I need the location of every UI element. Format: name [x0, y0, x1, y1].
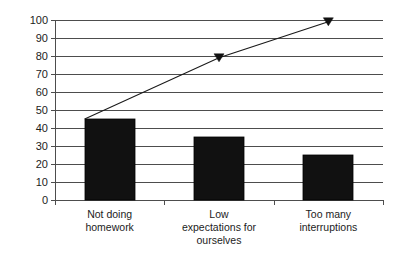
pareto-chart: 1009080706050403020100 Not doinghomework…: [0, 0, 401, 260]
category-label-3-line-1: Too many: [306, 208, 352, 220]
y-tick-label-30: 30: [36, 140, 48, 152]
y-tick-label-70: 70: [36, 68, 48, 80]
category-label-2-line-1: Low: [209, 208, 229, 220]
bar-2: [194, 137, 244, 200]
chart-canvas: 1009080706050403020100 Not doinghomework…: [0, 0, 401, 260]
y-tick-label-40: 40: [36, 122, 48, 134]
y-tick-label-60: 60: [36, 86, 48, 98]
y-tick-label-10: 10: [36, 176, 48, 188]
category-label-2-line-3: ourselves: [197, 234, 242, 246]
y-tick-label-100: 100: [30, 14, 48, 26]
y-tick-label-50: 50: [36, 104, 48, 116]
y-tick-label-0: 0: [42, 194, 48, 206]
y-tick-label-20: 20: [36, 158, 48, 170]
category-label-1-line-1: Not doing: [87, 208, 132, 220]
category-label-1-line-2: homework: [85, 221, 134, 233]
category-label-2-line-2: expectations for: [182, 221, 257, 233]
y-tick-label-80: 80: [36, 50, 48, 62]
bar-1: [85, 119, 135, 200]
bar-3: [303, 155, 353, 200]
category-label-3-line-2: interruptions: [299, 221, 357, 233]
y-tick-label-90: 90: [36, 32, 48, 44]
